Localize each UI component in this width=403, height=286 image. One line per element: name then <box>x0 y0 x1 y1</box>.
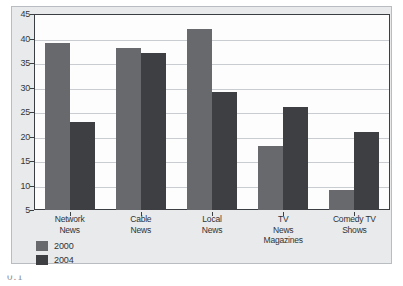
legend-label-2004: 2004 <box>54 255 74 265</box>
bar-group <box>116 14 166 210</box>
x-axis-label-line: Magazines <box>243 235 323 246</box>
x-axis-label-line: News <box>101 225 181 236</box>
x-axis-label-line: Network <box>30 214 110 225</box>
y-axis: 51015202530354045 <box>8 14 30 210</box>
x-axis-label-line: TV <box>243 214 323 225</box>
bars-layer <box>34 14 390 210</box>
y-axis-tick-label: 30 <box>20 83 30 93</box>
x-axis-label-3: LocalNews <box>172 214 252 235</box>
y-axis-tick-label: 40 <box>20 34 30 44</box>
x-axis-label-1: NetworkNews <box>30 214 110 235</box>
x-axis-label-line: News <box>30 225 110 236</box>
legend-label-2000: 2000 <box>54 241 74 251</box>
caption-fragment: 0.1 <box>7 270 24 282</box>
bar-2004-2 <box>141 53 166 210</box>
x-axis-label-line: Local <box>172 214 252 225</box>
bar-group <box>187 14 237 210</box>
y-axis-tick-label: 35 <box>20 58 30 68</box>
x-axis-label-2: CableNews <box>101 214 181 235</box>
y-axis-tick-mark <box>30 210 34 211</box>
bar-2000-1 <box>45 43 70 210</box>
bar-2004-4 <box>283 107 308 210</box>
legend-swatch-2004 <box>36 255 48 265</box>
x-axis-label-line: Comedy TV <box>314 214 394 225</box>
y-axis-tick-label: 25 <box>20 107 30 117</box>
bar-group <box>258 14 308 210</box>
y-axis-tick-label: 15 <box>20 156 30 166</box>
bar-2000-2 <box>116 48 141 210</box>
y-axis-tick-label: 10 <box>20 181 30 191</box>
x-axis-label-line: Shows <box>314 225 394 236</box>
bar-2000-4 <box>258 146 283 210</box>
bar-2000-3 <box>187 29 212 210</box>
x-axis-label-5: Comedy TVShows <box>314 214 394 235</box>
x-axis-label-line: News <box>172 225 252 236</box>
x-axis-label-line: Cable <box>101 214 181 225</box>
bar-group <box>45 14 95 210</box>
legend-swatch-2000 <box>36 241 48 251</box>
y-axis-tick-label: 20 <box>20 132 30 142</box>
y-axis-tick-label: 45 <box>20 9 30 19</box>
legend-item-2004: 2004 <box>36 254 156 266</box>
chart-figure: 51015202530354045 NetworkNewsCableNewsLo… <box>0 0 403 286</box>
chart-legend: 20002004 <box>36 240 156 268</box>
x-axis-label-4: TVNewsMagazines <box>243 214 323 246</box>
bar-2000-5 <box>329 190 354 210</box>
x-axis-label-line: News <box>243 225 323 236</box>
bar-2004-1 <box>70 122 95 210</box>
legend-item-2000: 2000 <box>36 240 156 252</box>
bar-2004-3 <box>212 92 237 210</box>
bar-2004-5 <box>354 132 379 210</box>
bar-group <box>329 14 379 210</box>
